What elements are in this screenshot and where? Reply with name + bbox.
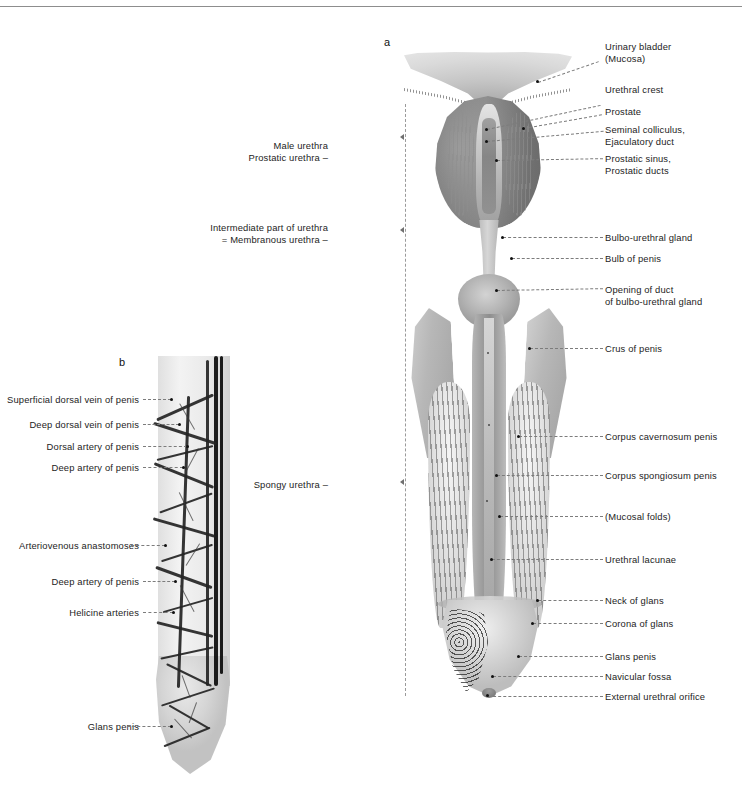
leader-mucosal-folds	[500, 516, 603, 517]
label-prostatic-sinus-prostatic-ducts: Prostatic sinus, Prostatic ducts	[605, 153, 671, 177]
lumen-speck	[486, 500, 488, 502]
leader-dot-opening-of-duct	[495, 289, 498, 292]
leader-corpus-cavernosum	[519, 436, 603, 437]
bracket-arrow-membranous	[400, 227, 404, 233]
leader-crus-of-penis	[530, 348, 603, 349]
leader-arteriovenous-anastomoses	[131, 545, 165, 546]
label-superficial-dorsal-vein-of-penis: Superficial dorsal vein of penis	[7, 394, 139, 406]
leader-dot-neck-of-glans	[536, 599, 539, 602]
label-opening-of-duct-of-bulbo-urethral-gland: Opening of duct of bulbo-urethral gland	[605, 284, 702, 308]
leader-dot-external-urethral-orifice	[486, 694, 489, 697]
label-external-urethral-orifice: External urethral orifice	[605, 691, 705, 703]
label-urethral-lacunae: Urethral lacunae	[605, 554, 676, 566]
leader-bulb-of-penis	[512, 258, 603, 259]
label-bulbo-urethral-gland: Bulbo-urethral gland	[605, 232, 692, 244]
leader-dot-crus-of-penis	[528, 347, 531, 350]
bracket-arrow-spongy	[400, 479, 404, 485]
superficial-dorsal-vein-trunk	[206, 360, 209, 686]
label-dorsal-artery-of-penis: Dorsal artery of penis	[47, 441, 139, 453]
leader-superficial-dorsal-vein	[143, 399, 171, 400]
label-male-urethra-prostatic-urethra: Male urethra Prostatic urethra –	[249, 140, 328, 164]
leader-dot-bulbo-urethral-gland	[501, 236, 504, 239]
label-glans-penis-a: Glans penis	[605, 651, 656, 663]
leader-dot-navicular-fossa	[491, 675, 494, 678]
bracket-arrow-prostatic	[400, 134, 404, 140]
leader-navicular-fossa	[493, 676, 603, 677]
label-intermediate-part-of-urethra: Intermediate part of urethra = Membranou…	[210, 222, 328, 246]
label-urinary-bladder-mucosa: Urinary bladder (Mucosa)	[605, 41, 671, 65]
anatomical-plate: a b Male urethra Prostatic urethra – Int…	[0, 0, 742, 807]
leader-deep-dorsal-vein	[143, 424, 179, 425]
label-crus-of-penis: Crus of penis	[605, 343, 662, 355]
label-glans-penis-b: Glans penis	[88, 721, 139, 733]
leader-neck-of-glans	[538, 600, 603, 601]
leader-dot-helicine-arteries	[172, 611, 175, 614]
corpus-cavernosum-right	[508, 382, 550, 628]
label-deep-artery-of-penis-lower: Deep artery of penis	[52, 576, 139, 588]
prostatic-sinus-left	[446, 111, 476, 217]
figure-b-illustration	[152, 356, 244, 780]
figure-a-illustration	[398, 52, 580, 700]
leader-bulbo-urethral-gland	[503, 237, 603, 238]
leader-dot-prostatic-sinus	[495, 159, 498, 162]
leader-external-urethral-orifice	[488, 696, 603, 697]
label-neck-of-glans: Neck of glans	[605, 595, 664, 607]
label-bulb-of-penis: Bulb of penis	[605, 253, 661, 265]
page-top-rule	[0, 6, 742, 7]
leader-deep-artery-upper	[143, 467, 183, 468]
label-deep-artery-of-penis-upper: Deep artery of penis	[52, 462, 139, 474]
leader-urethral-lacunae	[492, 559, 603, 560]
leader-glans-penis-b	[127, 726, 171, 727]
leader-dot-deep-artery-upper	[182, 466, 185, 469]
label-helicine-arteries: Helicine arteries	[69, 607, 139, 619]
leader-dot-prostate	[522, 127, 525, 130]
leader-dot-superficial-dorsal-vein	[170, 398, 173, 401]
leader-dot-bulb-of-penis	[510, 257, 513, 260]
label-navicular-fossa: Navicular fossa	[605, 671, 671, 683]
label-prostate: Prostate	[605, 106, 641, 118]
leader-corona-of-glans	[533, 623, 603, 624]
leader-dot-urethral-lacunae	[490, 558, 493, 561]
label-deep-dorsal-vein-of-penis: Deep dorsal vein of penis	[29, 419, 139, 431]
leader-dot-urethral-crest	[485, 128, 488, 131]
lumen-speck	[488, 424, 490, 426]
urethral-crest-shape	[482, 118, 496, 214]
leader-dot-corpus-spongiosum	[495, 474, 498, 477]
leader-dot-glans-penis-a	[517, 655, 520, 658]
leader-dot-glans-penis-b	[170, 725, 173, 728]
deep-dorsal-vein-trunk	[214, 356, 218, 686]
figure-letter-a: a	[384, 36, 390, 48]
label-spongy-urethra: Spongy urethra –	[254, 479, 328, 491]
figure-letter-b: b	[119, 356, 125, 368]
corpus-cavernosum-left	[428, 382, 470, 628]
leader-dot-urinary-bladder	[536, 80, 539, 83]
leader-glans-penis-a	[519, 656, 603, 657]
leader-dot-deep-artery-lower	[174, 580, 177, 583]
leader-dot-corpus-cavernosum	[517, 435, 520, 438]
label-corpus-cavernosum-penis: Corpus cavernosum penis	[605, 431, 717, 443]
leader-dot-mucosal-folds	[498, 515, 501, 518]
leader-dot-seminal-colliculus	[485, 140, 488, 143]
glans-body	[156, 656, 230, 774]
label-seminal-colliculus-ejaculatory-duct: Seminal colliculus, Ejaculatory duct	[605, 124, 685, 148]
lumen-speck	[487, 352, 489, 354]
urethra-region-bracket	[405, 104, 407, 696]
label-corpus-spongiosum-penis: Corpus spongiosum penis	[605, 470, 717, 482]
label-corona-of-glans: Corona of glans	[605, 618, 673, 630]
label-arteriovenous-anastomoses: Arteriovenous anastomoses	[19, 540, 139, 552]
leader-dot-dorsal-artery	[186, 445, 189, 448]
label-urethral-crest: Urethral crest	[605, 84, 663, 96]
dorsal-artery-trunk	[220, 356, 223, 674]
label-mucosal-folds: (Mucosal folds)	[605, 511, 671, 523]
leader-dot-arteriovenous-anastomoses	[164, 544, 167, 547]
leader-dorsal-artery	[143, 446, 187, 447]
leader-helicine-arteries	[143, 612, 173, 613]
leader-corpus-spongiosum	[497, 475, 603, 476]
leader-deep-artery-lower	[143, 581, 175, 582]
leader-dot-corona-of-glans	[531, 622, 534, 625]
leader-dot-deep-dorsal-vein	[178, 423, 181, 426]
